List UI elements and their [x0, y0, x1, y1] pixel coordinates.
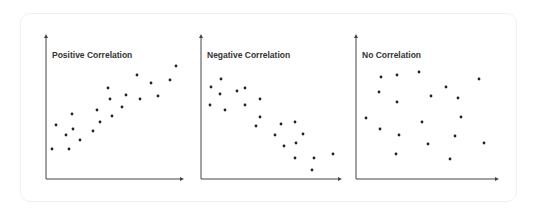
panel-no-correlation: No Correlation [354, 34, 499, 181]
data-point [125, 94, 128, 97]
data-point [175, 65, 178, 68]
data-point [236, 90, 239, 93]
data-point [244, 87, 247, 90]
data-point [244, 104, 247, 107]
y-axis-arrow-icon [199, 34, 203, 38]
data-point [283, 145, 286, 148]
data-point [139, 98, 142, 101]
data-point [379, 128, 382, 131]
data-point [313, 157, 316, 160]
data-point [68, 148, 71, 151]
data-point [220, 78, 223, 81]
data-point [65, 134, 68, 137]
data-point [150, 82, 153, 85]
data-point [478, 78, 481, 81]
data-point [79, 139, 82, 142]
panel-title: No Correlation [362, 50, 421, 60]
data-point [274, 134, 277, 137]
data-point [71, 113, 74, 116]
data-point [311, 169, 314, 172]
data-point [421, 121, 424, 124]
data-point [294, 121, 297, 124]
data-point [380, 76, 383, 79]
data-point [427, 143, 430, 146]
y-axis-arrow-icon [44, 34, 48, 38]
data-point [395, 153, 398, 156]
data-point [209, 104, 212, 107]
data-point [396, 101, 399, 104]
data-point [111, 115, 114, 118]
data-point [418, 71, 421, 74]
data-point [136, 74, 139, 77]
data-point [157, 95, 160, 98]
data-point [449, 158, 452, 161]
panel-title: Negative Correlation [207, 50, 290, 60]
data-point [224, 109, 227, 112]
data-point [109, 98, 112, 101]
data-point [255, 125, 258, 128]
data-point [259, 116, 262, 119]
data-point [332, 153, 335, 156]
y-axis-arrow-icon [354, 34, 358, 38]
panel-title: Positive Correlation [52, 50, 132, 60]
data-point [92, 130, 95, 133]
x-axis-arrow-icon [338, 177, 342, 181]
x-axis-arrow-icon [495, 177, 499, 181]
data-point [51, 148, 54, 151]
data-point [302, 133, 305, 136]
data-point [219, 93, 222, 96]
x-axis-arrow-icon [180, 177, 184, 181]
data-point [460, 116, 463, 119]
scatter-plots: Positive Correlation Negative Correlatio… [0, 0, 541, 212]
data-point [107, 87, 110, 90]
data-point [398, 134, 401, 137]
data-point [483, 142, 486, 145]
data-point [72, 128, 75, 131]
data-point [55, 124, 58, 127]
panel-positive-correlation: Positive Correlation [44, 34, 184, 181]
data-point [454, 135, 457, 138]
data-point [99, 121, 102, 124]
data-point [210, 86, 213, 89]
data-point [295, 142, 298, 145]
data-point [378, 91, 381, 94]
data-point [365, 117, 368, 120]
data-point [280, 123, 283, 126]
data-point [169, 79, 172, 82]
data-point [259, 98, 262, 101]
data-point [445, 86, 448, 89]
data-point [294, 157, 297, 160]
data-point [96, 109, 99, 112]
data-point [457, 97, 460, 100]
panel-negative-correlation: Negative Correlation [199, 34, 342, 181]
data-point [396, 74, 399, 77]
data-point [121, 106, 124, 109]
data-point [430, 95, 433, 98]
